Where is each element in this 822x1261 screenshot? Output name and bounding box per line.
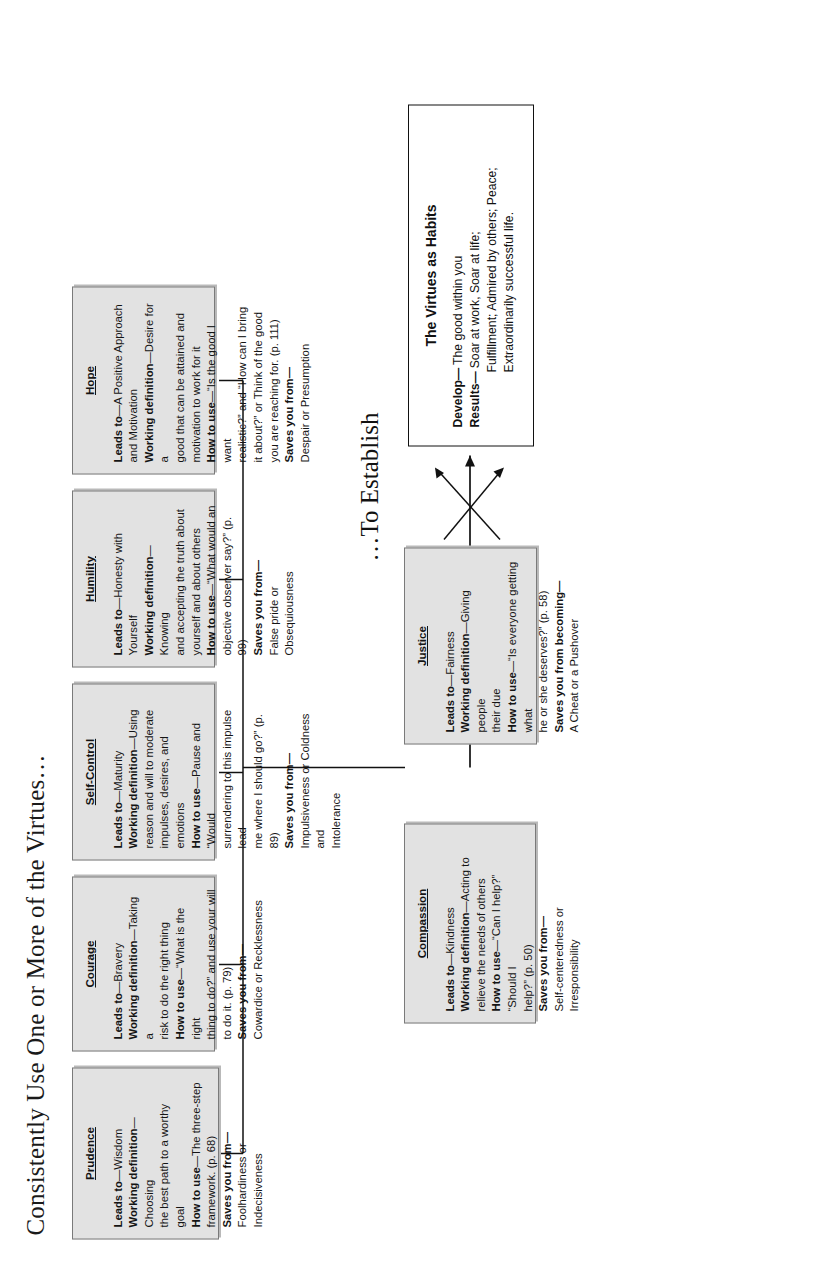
virtue-line: How to use—“Can I help?” “Should I — [489, 835, 520, 1011]
virtue-line: Leads to—A Positive Approach — [111, 298, 127, 462]
virtue-card-hope[interactable]: Hope Leads to—A Positive Approach and Mo… — [72, 286, 215, 474]
virtue-line: Working definition—Desire for a — [142, 298, 173, 462]
virtue-line: Leads to—Fairness — [443, 559, 459, 732]
virtue-line: How to use—Pause and “Would — [189, 695, 220, 848]
virtue-line: he or she deserves?” (p. 58) — [536, 559, 552, 732]
virtue-line: Leads toLeads to—Wisdom—Wisdom — [111, 1079, 127, 1227]
establish-label: …To Establish — [356, 412, 384, 561]
virtue-line: the best path to a worthy goal — [157, 1079, 188, 1227]
virtue-line: me where I should go?” (p. 89) — [251, 695, 282, 848]
virtue-line: Saves you from— — [220, 1079, 236, 1227]
virtue-line: reason and will to moderate — [142, 695, 158, 848]
virtue-line: False pride or Obsequiousness — [267, 502, 298, 655]
virtue-line: framework. (p. 68) — [204, 1079, 220, 1227]
virtue-line: you are reaching for. (p. 111) — [267, 298, 283, 462]
virtue-line: Despair or Presumption — [298, 298, 314, 462]
virtue-card-justice[interactable]: Justice Leads to—Fairness Working defini… — [404, 547, 537, 744]
virtue-name: Courage — [82, 888, 98, 1039]
virtue-line: relieve the needs of others — [474, 835, 490, 1011]
virtue-line: Saves you from becoming— — [552, 559, 568, 732]
virtue-name: Justice — [414, 559, 430, 732]
virtue-line: and Motivation — [126, 298, 142, 462]
virtue-line: Foolhardiness or Indecisiveness — [235, 1079, 266, 1227]
virtue-card-prudence[interactable]: Prudence Leads toLeads to—Wisdom—Wisdom … — [72, 1067, 219, 1239]
virtue-line: Intolerance — [329, 695, 345, 848]
virtue-line: risk to do the right thing — [157, 888, 173, 1039]
virtue-line: yourself and about others — [189, 502, 205, 655]
result-row-results: Results— Soar at work, Soar at life; — [467, 123, 484, 427]
rotated-diagram-canvas: Consistently Use One or More of the Virt… — [0, 0, 822, 1261]
virtue-line: A Cheat or a Pushover — [567, 559, 583, 732]
virtue-line: Cowardice or Recklessness — [251, 888, 267, 1039]
results-value-1: Soar at work, Soar at life; — [467, 231, 484, 368]
develop-value: The good within you — [450, 255, 467, 364]
virtue-name: Humility — [82, 502, 98, 655]
virtue-line: and accepting the truth about — [173, 502, 189, 655]
virtue-line: Working definition—Choosing — [126, 1079, 157, 1227]
virtue-name: Self-Control — [82, 695, 98, 848]
virtue-name: Hope — [82, 298, 98, 462]
virtue-line: to do it. (p. 79) — [220, 888, 236, 1039]
virtue-line: How to use—The three-step — [189, 1079, 205, 1227]
virtue-line: thing to do?” and use your will — [204, 888, 220, 1039]
virtue-name: Prudence — [82, 1079, 98, 1227]
virtue-line: Saves you from— — [536, 835, 552, 1011]
results-value-3: Extraordinarily successful life. — [501, 123, 518, 372]
virtue-line: Leads to—Maturity — [111, 695, 127, 848]
virtue-card-humility[interactable]: Humility Leads to—Honesty with Yourself … — [72, 490, 215, 667]
virtue-line: Leads to—Bravery — [111, 888, 127, 1039]
virtue-line: it about?” or Think of the good — [251, 298, 267, 462]
virtue-line: realistic?” and “How can I bring — [235, 298, 251, 462]
virtue-line: Working definition—Giving people — [458, 559, 489, 732]
virtue-line: Saves you from— — [251, 502, 267, 655]
diagram-page: Consistently Use One or More of the Virt… — [0, 0, 822, 1261]
virtue-line: Leads to—Kindness — [443, 835, 459, 1011]
virtue-line: good that can be attained and — [173, 298, 189, 462]
virtue-line: Working definition—Taking a — [126, 888, 157, 1039]
develop-key: Develop— — [450, 367, 467, 427]
virtue-line: Leads to—Honesty with Yourself — [111, 502, 142, 655]
virtue-card-compassion[interactable]: Compassion Leads to—Kindness Working def… — [404, 823, 536, 1023]
virtue-line: How to use—“What would an — [204, 502, 220, 655]
virtue-line: motivation to work for it — [189, 298, 205, 462]
virtue-line: their due — [489, 559, 505, 732]
virtue-line: How to use—“What is the right — [173, 888, 204, 1039]
virtue-card-self-control[interactable]: Self-Control Leads to—Maturity Working d… — [72, 683, 215, 860]
virtue-line: Impulsiveness or Coldness and — [298, 695, 329, 848]
virtue-line: impulses, desires, and emotions — [157, 695, 188, 848]
virtue-line: Working definition—Acting to — [458, 835, 474, 1011]
virtue-line: Saves you from— — [282, 695, 298, 848]
virtue-card-courage[interactable]: Courage Leads to—Bravery Working definit… — [72, 876, 215, 1051]
results-value-2: Fulfillment; Admired by others; Peace; — [484, 123, 501, 372]
virtue-line: help?” (p. 50) — [521, 835, 537, 1011]
result-heading: The Virtues as Habits — [423, 123, 440, 427]
virtue-name: Compassion — [414, 835, 430, 1011]
virtue-line: How to use—“Is the good I want — [204, 298, 235, 462]
virtue-line: objective observer say?” (p. 99) — [220, 502, 251, 655]
virtue-line: Working definition—Using — [126, 695, 142, 848]
virtue-line: Saves you from— — [282, 298, 298, 462]
virtue-line: surrendering to this impulse lead — [220, 695, 251, 848]
result-row-develop: Develop— The good within you — [450, 123, 467, 427]
virtue-line: Saves you from— — [235, 888, 251, 1039]
virtue-line: How to use—“Is everyone getting what — [505, 559, 536, 732]
result-card-virtues-as-habits[interactable]: The Virtues as Habits Develop— The good … — [408, 104, 534, 446]
virtue-line: Self-centeredness or Irresponsibility — [552, 835, 583, 1011]
virtue-line: Working definition—Knowing — [142, 502, 173, 655]
results-key: Results— — [467, 371, 484, 427]
